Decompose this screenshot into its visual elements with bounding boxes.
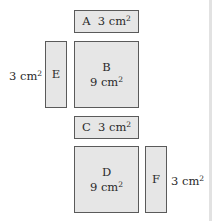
- shape-c: C 3 cm2: [74, 116, 139, 139]
- shape-a-label: A 3 cm2: [82, 14, 131, 28]
- shape-b-letter: B: [102, 60, 110, 74]
- shape-b: B 9 cm2: [74, 41, 139, 108]
- shape-d-area: 9 cm2: [90, 180, 123, 194]
- shape-b-area: 9 cm2: [90, 75, 123, 89]
- shape-d-letter: D: [102, 165, 111, 179]
- shape-a: A 3 cm2: [74, 10, 139, 33]
- shape-c-label: C 3 cm2: [82, 120, 131, 134]
- shape-f-area-label: 3 cm2: [171, 174, 204, 188]
- shape-e: E: [45, 41, 67, 108]
- shape-e-area-label: 3 cm2: [9, 69, 42, 83]
- shape-d: D 9 cm2: [74, 146, 139, 213]
- shape-e-letter: E: [52, 67, 60, 81]
- shape-f-letter: F: [152, 172, 160, 186]
- shape-f: F: [145, 146, 167, 213]
- right-edge-strip: [209, 0, 212, 221]
